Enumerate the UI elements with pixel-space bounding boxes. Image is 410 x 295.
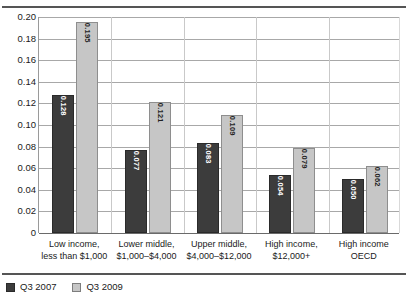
bar-value-label: 0.079: [301, 149, 309, 169]
legend-swatch-light: [72, 283, 81, 292]
y-axis-tick-label: 0.04: [0, 185, 36, 195]
bar-q3-2009: 0.195: [76, 22, 98, 233]
category-label-line: Low income,: [38, 238, 110, 250]
bar-value-label: 0.083: [204, 144, 212, 164]
axis-baseline: [39, 233, 399, 234]
y-axis-tick-label: 0.18: [0, 34, 36, 44]
bar-q3-2007: 0.083: [197, 143, 219, 233]
group-separator: [256, 17, 257, 233]
plot-area: 0.1280.1950.0770.1210.0830.1090.0540.079…: [38, 17, 400, 233]
y-axis-tick-label: 0.20: [0, 12, 36, 22]
x-axis-category-label: Lower middle,$1,000–$4,000: [110, 238, 182, 262]
group-separator: [329, 17, 330, 233]
bottom-divider-rule: [2, 273, 406, 275]
bar-q3-2007: 0.128: [52, 95, 74, 233]
bar-q3-2009: 0.062: [366, 166, 388, 233]
x-axis-category-label: Low income,less than $1,000: [38, 238, 110, 262]
legend-item: Q3 2009: [72, 282, 122, 292]
category-label-line: $4,000–$12,000: [183, 250, 255, 262]
bar-q3-2007: 0.054: [269, 175, 291, 233]
bar-value-label: 0.121: [156, 103, 164, 123]
category-label-line: Upper middle,: [183, 238, 255, 250]
bar-q3-2007: 0.050: [342, 179, 364, 233]
bar-q3-2009: 0.121: [149, 102, 171, 233]
y-axis-tick-label: 0.10: [0, 120, 36, 130]
chart-legend: Q3 2007Q3 2009: [6, 280, 123, 294]
gridline: [39, 17, 399, 18]
bar-value-label: 0.077: [132, 151, 140, 171]
bar-value-label: 0.050: [349, 180, 357, 200]
top-divider-rule: [2, 6, 406, 8]
legend-swatch-dark: [6, 283, 15, 292]
legend-label: Q3 2007: [20, 282, 56, 292]
x-axis-category-label: High incomeOECD: [328, 238, 400, 262]
bar-value-label: 0.054: [277, 176, 285, 196]
bar-q3-2009: 0.079: [293, 148, 315, 233]
x-axis-category-labels: Low income,less than $1,000Lower middle,…: [38, 238, 400, 270]
group-separator: [184, 17, 185, 233]
category-label-line: High income,: [255, 238, 327, 250]
bar-q3-2007: 0.077: [125, 150, 147, 233]
y-axis: 0.200.180.160.140.120.100.080.060.040.02…: [0, 17, 36, 233]
category-label-line: High income: [328, 238, 400, 250]
y-axis-tick-label: 0: [0, 228, 36, 238]
bar-value-label: 0.062: [373, 167, 381, 187]
bar-q3-2009: 0.109: [221, 115, 243, 233]
legend-label: Q3 2009: [86, 282, 122, 292]
bar-value-label: 0.109: [228, 116, 236, 136]
x-axis-category-label: High income,$12,000+: [255, 238, 327, 262]
y-axis-tick-label: 0.06: [0, 163, 36, 173]
y-axis-tick-label: 0.16: [0, 55, 36, 65]
category-label-line: $12,000+: [255, 250, 327, 262]
y-axis-tick-label: 0.12: [0, 99, 36, 109]
category-label-line: $1,000–$4,000: [110, 250, 182, 262]
category-label-line: less than $1,000: [38, 250, 110, 262]
y-axis-tick-label: 0.14: [0, 77, 36, 87]
category-label-line: OECD: [328, 250, 400, 262]
bar-chart-figure: 0.200.180.160.140.120.100.080.060.040.02…: [0, 0, 410, 295]
category-label-line: Lower middle,: [110, 238, 182, 250]
y-axis-tick-label: 0.02: [0, 207, 36, 217]
bar-value-label: 0.128: [59, 96, 67, 116]
bar-value-label: 0.195: [83, 23, 91, 43]
group-separator: [111, 17, 112, 233]
legend-item: Q3 2007: [6, 282, 56, 292]
y-axis-tick-label: 0.08: [0, 142, 36, 152]
x-axis-category-label: Upper middle,$4,000–$12,000: [183, 238, 255, 262]
